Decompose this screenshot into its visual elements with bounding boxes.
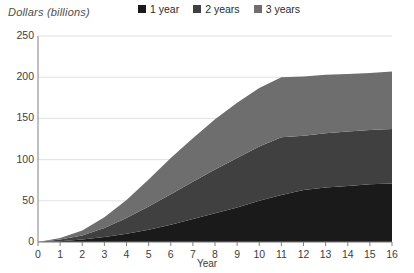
y-tick-label: 200	[0, 70, 34, 82]
y-tick-label: 0	[0, 235, 34, 247]
stacked-area-chart: Dollars (billions) 1 year2 years3 years …	[0, 0, 414, 273]
tick-marks	[38, 242, 392, 246]
plot-canvas	[0, 0, 414, 273]
y-tick-label: 250	[0, 29, 34, 41]
y-tick-label: 150	[0, 111, 34, 123]
y-tick-label: 100	[0, 153, 34, 165]
y-tick-label: 50	[0, 194, 34, 206]
area-series-group	[38, 71, 392, 242]
x-axis-title: Year	[0, 258, 414, 269]
